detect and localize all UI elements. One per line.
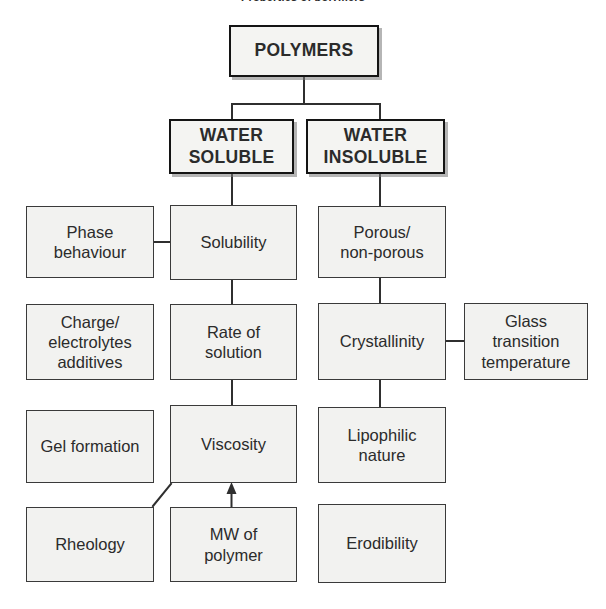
node-polymers-label: POLYMERS (254, 40, 353, 61)
connector-rheology-to-viscosity (153, 484, 171, 506)
connector-bus-to-soluble (231, 103, 233, 120)
node-erodibility-label: Erodibility (346, 533, 418, 553)
node-lipophilic-nature-label: Lipophilic nature (348, 425, 417, 465)
node-charge-electrolytes-additives-label: Charge/ electrolytes additives (48, 312, 131, 372)
node-mw-of-polymer[interactable]: MW of polymer (170, 507, 297, 582)
connector-crystallinity-to-lipophilic (379, 380, 381, 407)
node-viscosity-label: Viscosity (201, 434, 266, 454)
node-porous-non-porous[interactable]: Porous/ non-porous (318, 206, 446, 278)
node-water-soluble[interactable]: WATER SOLUBLE (169, 119, 294, 174)
node-erodibility[interactable]: Erodibility (318, 504, 446, 583)
node-water-soluble-label: WATER SOLUBLE (189, 125, 275, 168)
node-crystallinity[interactable]: Crystallinity (318, 303, 446, 380)
node-glass-transition-temperature[interactable]: Glass transition temperature (464, 303, 588, 380)
arrowhead-mw-to-viscosity (227, 482, 237, 494)
node-solubility[interactable]: Solubility (170, 205, 297, 280)
connector-bus-to-insoluble (379, 103, 381, 120)
node-water-insoluble[interactable]: WATER INSOLUBLE (306, 119, 445, 174)
node-water-insoluble-label: WATER INSOLUBLE (324, 125, 428, 168)
node-viscosity[interactable]: Viscosity (170, 405, 297, 483)
node-porous-non-porous-label: Porous/ non-porous (340, 222, 423, 262)
connector-crystallinity-to-glass (446, 340, 465, 342)
node-rheology-label: Rheology (55, 534, 125, 554)
polymers-flow-chart: Properties of polymers POLYMERS WATER SO… (0, 0, 606, 609)
connector-insoluble-to-porous (379, 174, 381, 206)
node-rheology[interactable]: Rheology (26, 507, 154, 582)
connector-phase-to-solubility (154, 241, 171, 243)
node-polymers[interactable]: POLYMERS (229, 25, 379, 77)
node-gel-formation-label: Gel formation (40, 436, 139, 456)
connector-split-bus (231, 103, 381, 105)
connector-solubility-to-rate (231, 280, 233, 304)
connector-soluble-to-solubility (231, 174, 233, 206)
node-solubility-label: Solubility (200, 232, 266, 252)
node-phase-behaviour-label: Phase behaviour (54, 222, 126, 262)
node-gel-formation[interactable]: Gel formation (26, 410, 154, 483)
node-mw-of-polymer-label: MW of polymer (204, 524, 263, 564)
node-glass-transition-temperature-label: Glass transition temperature (482, 311, 571, 371)
node-crystallinity-label: Crystallinity (340, 331, 424, 351)
node-charge-electrolytes-additives[interactable]: Charge/ electrolytes additives (26, 304, 154, 380)
connector-polymers-down (303, 77, 305, 104)
connector-rate-to-viscosity (231, 380, 233, 406)
node-rate-of-solution-label: Rate of solution (205, 322, 262, 362)
node-phase-behaviour[interactable]: Phase behaviour (26, 206, 154, 278)
node-lipophilic-nature[interactable]: Lipophilic nature (318, 407, 446, 483)
node-rate-of-solution[interactable]: Rate of solution (170, 304, 297, 380)
figure-caption-clipped: Properties of polymers (0, 0, 606, 1)
connector-porous-to-crystallinity (379, 278, 381, 304)
